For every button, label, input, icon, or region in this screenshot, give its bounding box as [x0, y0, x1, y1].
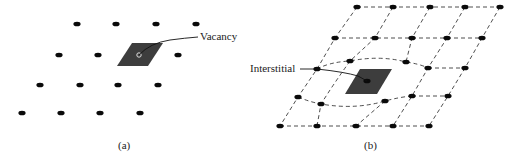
caption-b: (b) [364, 139, 377, 151]
atom-icon [112, 22, 119, 27]
atom-icon [154, 83, 161, 88]
atom-icon [317, 102, 324, 107]
atom-icon [313, 124, 320, 129]
atom-icon [381, 99, 388, 104]
caption-a: (a) [118, 139, 130, 151]
atom-icon [389, 5, 396, 10]
atom-icon [73, 22, 80, 27]
atom-icon [443, 36, 450, 41]
atom-icon [152, 22, 159, 27]
lattice-atoms-b [276, 5, 503, 129]
atom-icon [96, 111, 103, 116]
lattice-line [317, 7, 393, 126]
atom-icon [94, 53, 101, 58]
atom-icon [352, 124, 359, 129]
atom-icon [114, 83, 121, 88]
atom-icon [76, 83, 83, 88]
atom-icon [294, 95, 301, 100]
lattice-line [406, 7, 430, 62]
atom-icon [353, 5, 360, 10]
lattice-line [298, 96, 412, 106]
atom-icon [18, 111, 25, 116]
atom-icon [331, 36, 338, 41]
atom-icon [389, 124, 396, 129]
atom-icon [444, 94, 451, 99]
atom-icon [425, 124, 432, 129]
atom-icon [461, 66, 468, 71]
lattice-line [317, 58, 428, 69]
atom-icon [461, 5, 468, 10]
atom-icon [346, 59, 353, 64]
panel-b-interstitial [276, 5, 503, 129]
vacancy-label: Vacancy [200, 30, 237, 42]
atom-icon [424, 66, 431, 71]
atom-icon [402, 60, 409, 65]
defects-diagram [0, 0, 519, 157]
atom-icon [174, 53, 181, 58]
lattice-atoms-a [18, 22, 199, 116]
atom-icon [55, 53, 62, 58]
atom-icon [496, 5, 503, 10]
interstitial-label: Interstitial [250, 62, 295, 74]
panel-a-vacancy [18, 22, 199, 116]
atom-icon [57, 111, 64, 116]
atom-icon [36, 83, 43, 88]
atom-icon [408, 94, 415, 99]
atom-icon [426, 5, 433, 10]
atom-icon [136, 111, 143, 116]
atom-icon [478, 36, 485, 41]
atom-icon [408, 36, 415, 41]
atom-icon [192, 22, 199, 27]
atom-icon [371, 36, 378, 41]
atom-icon [276, 124, 283, 129]
